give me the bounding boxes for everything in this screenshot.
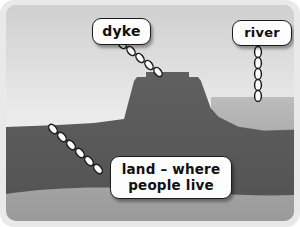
river-chain-connector: [249, 46, 267, 108]
label-dyke[interactable]: dyke: [92, 18, 151, 45]
land-chain-connector: [47, 123, 119, 179]
image-frame-inner: dyke river land – where people live: [6, 5, 294, 221]
label-land-text: land – where people live: [122, 162, 221, 194]
diagram-canvas: dyke river land – where people live: [0, 0, 300, 227]
label-river-text: river: [244, 25, 280, 40]
image-frame: dyke river land – where people live: [0, 0, 300, 227]
dyke-chain-connector: [116, 39, 176, 81]
label-river[interactable]: river: [232, 20, 292, 46]
label-land[interactable]: land – where people live: [110, 156, 232, 199]
label-dyke-text: dyke: [102, 23, 140, 40]
